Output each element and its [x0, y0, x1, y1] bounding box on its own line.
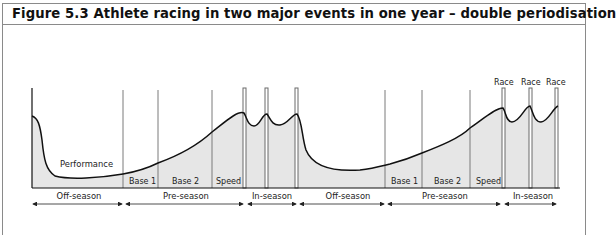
season-label-offseason-a: Off-season [57, 191, 102, 201]
phase-label-speed-a: Speed [216, 177, 241, 186]
season-label-preseason-a: Pre-season [163, 191, 209, 201]
race-label-3: Race [546, 78, 566, 87]
season-label-inseason-b: In-season [513, 191, 553, 201]
phase-label-base1-a: Base 1 [129, 177, 156, 186]
phase-label-base2-a: Base 2 [172, 177, 199, 186]
race-label-1: Race [494, 78, 514, 87]
phase-label-base2-b: Base 2 [434, 177, 461, 186]
performance-label: Performance [60, 159, 113, 169]
season-label-offseason-b: Off-season [326, 191, 371, 201]
race-label-2: Race [521, 78, 541, 87]
season-label-inseason-a: In-season [252, 191, 292, 201]
phase-label-speed-b: Speed [476, 177, 501, 186]
phase-label-base1-b: Base 1 [391, 177, 418, 186]
season-label-preseason-b: Pre-season [422, 191, 468, 201]
